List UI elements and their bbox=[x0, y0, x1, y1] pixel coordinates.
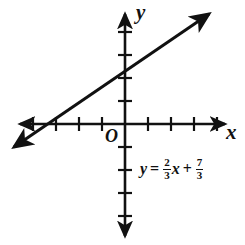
slope-numerator: 2 bbox=[163, 157, 171, 169]
equation-variable-x: x bbox=[172, 161, 180, 177]
x-axis bbox=[20, 117, 225, 131]
equation-lhs: y bbox=[140, 161, 147, 177]
intercept-denominator: 3 bbox=[196, 169, 204, 182]
slope-denominator: 3 bbox=[163, 169, 171, 182]
equation-plus-sign: + bbox=[183, 161, 192, 177]
equation-annotation: y = 2 3 x + 7 3 bbox=[140, 157, 204, 181]
x-axis-label: x bbox=[226, 122, 237, 143]
coordinate-plane bbox=[0, 0, 245, 245]
origin-label: O bbox=[105, 127, 118, 145]
intercept-fraction: 7 3 bbox=[196, 157, 204, 181]
y-axis-label: y bbox=[136, 2, 145, 23]
intercept-numerator: 7 bbox=[196, 157, 204, 169]
slope-fraction: 2 3 bbox=[163, 157, 171, 181]
graph-figure: y x O y = 2 3 x + 7 3 bbox=[0, 0, 245, 245]
equation-equals-sign: = bbox=[150, 161, 159, 177]
